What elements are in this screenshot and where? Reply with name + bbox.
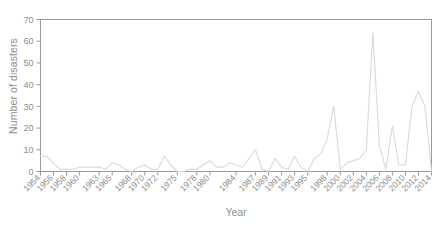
y-tick-label: 20 [23, 123, 33, 133]
y-tick-label: 40 [23, 80, 33, 90]
y-tick-label: 10 [23, 145, 33, 155]
x-axis-ticks: 1954195619581960196319651968197019721975… [21, 172, 433, 194]
y-tick-label: 30 [23, 102, 33, 112]
y-tick-label: 60 [23, 36, 33, 46]
y-tick-label: 50 [23, 58, 33, 68]
line-chart-plot: 010203040506070 195419561958196019631965… [0, 0, 438, 231]
x-tick-label: 1984 [217, 173, 238, 194]
x-tick-label: 1975 [158, 173, 179, 194]
y-axis-ticks: 010203040506070 [23, 15, 40, 177]
chart-figure: Number of disasters Year 010203040506070… [0, 0, 438, 231]
y-tick-label: 70 [23, 15, 33, 25]
